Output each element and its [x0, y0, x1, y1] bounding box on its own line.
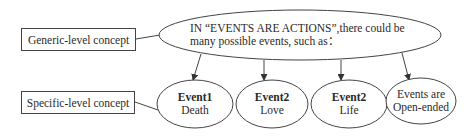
open-ended-subtitle: Open-ended — [386, 101, 456, 114]
arrow-to-event1 — [193, 54, 201, 80]
open-ended-title: Events are — [386, 88, 456, 101]
arrow-to-open-ended — [402, 53, 409, 80]
event2-love-subtitle: Love — [236, 104, 308, 117]
specific-connector-line — [135, 102, 158, 110]
generic-level-box: Generic-level concept — [21, 28, 136, 51]
event2-life-text: Event2 Life — [311, 91, 387, 117]
specific-level-box: Specific-level concept — [21, 91, 135, 114]
specific-level-label: Specific-level concept — [27, 97, 130, 109]
event1-title: Event1 — [157, 91, 233, 104]
top-node-line1: IN “EVENTS ARE ACTIONS”,there could be — [190, 22, 432, 35]
event2-love-title: Event2 — [236, 91, 308, 104]
top-node-text: IN “EVENTS ARE ACTIONS”,there could be m… — [170, 22, 432, 48]
open-ended-text: Events are Open-ended — [386, 88, 456, 114]
event2-love-text: Event2 Love — [236, 91, 308, 117]
generic-level-label: Generic-level concept — [28, 34, 129, 46]
diagram-canvas — [0, 0, 473, 139]
generic-connector-line — [136, 35, 160, 39]
top-node-line2: many possible events, such as： — [190, 35, 432, 48]
event2-life-subtitle: Life — [311, 104, 387, 117]
event2-life-title: Event2 — [311, 91, 387, 104]
event1-subtitle: Death — [157, 104, 233, 117]
event1-text: Event1 Death — [157, 91, 233, 117]
